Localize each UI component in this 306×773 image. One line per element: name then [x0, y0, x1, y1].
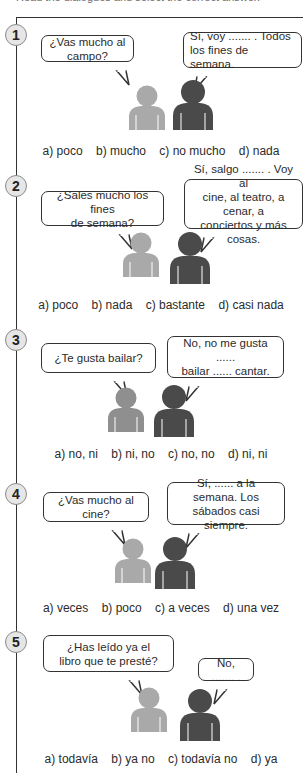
option-d[interactable]: d) ya	[251, 752, 278, 766]
option-d[interactable]: d) una vez	[223, 601, 279, 615]
exercise-number-badge: 3	[5, 329, 27, 351]
question-text: ¿Te gusta bailar?	[54, 351, 142, 365]
answer-bubble: No, no me gusta ...... bailar ...... can…	[167, 336, 284, 378]
option-c[interactable]: c) todavía no	[168, 752, 237, 766]
frame-left-line	[16, 17, 17, 773]
question-text: ¿Sales mucho los fines de semana?	[48, 188, 157, 230]
frame-top-line	[16, 17, 303, 18]
option-b[interactable]: b) ni, no	[111, 447, 154, 461]
answer-text: Sí, ...... a la semana. Los sábados casi…	[174, 476, 278, 532]
instruction-text: Read the dialogues and select the correc…	[16, 0, 306, 3]
answer-options: a) veces b) poco c) a veces d) una vez	[16, 601, 306, 615]
person-icon-light	[129, 85, 165, 130]
person-icon-dark	[180, 689, 220, 741]
person-icon-light	[123, 232, 159, 277]
answer-bubble: No, ....... .	[198, 658, 254, 681]
exercise-number-badge: 2	[5, 175, 27, 197]
person-icon-dark	[155, 537, 195, 589]
question-bubble: ¿Te gusta bailar?	[41, 343, 156, 373]
answer-options: a) poco b) mucho c) no mucho d) nada	[16, 144, 306, 158]
option-b[interactable]: b) ya no	[111, 752, 154, 766]
option-c[interactable]: c) bastante	[146, 298, 205, 312]
option-a[interactable]: a) no, ni	[55, 447, 98, 461]
question-bubble: ¿Has leído ya el libro que te presté?	[43, 635, 174, 672]
answer-bubble: Sí, ...... a la semana. Los sábados casi…	[167, 482, 285, 525]
option-d[interactable]: d) ni, ni	[228, 447, 267, 461]
option-c[interactable]: c) no, no	[168, 447, 215, 461]
exercise-number-badge: 1	[5, 24, 27, 46]
answer-options: a) poco b) nada c) bastante d) casi nada	[16, 298, 306, 312]
person-icon-dark	[154, 385, 194, 437]
question-text: ¿Vas mucho al cine?	[50, 493, 142, 521]
question-text: ¿Vas mucho al campo?	[48, 35, 127, 63]
person-icon-light	[108, 387, 144, 432]
option-b[interactable]: b) nada	[92, 298, 133, 312]
question-bubble: ¿Vas mucho al campo?	[41, 35, 134, 62]
option-c[interactable]: c) no mucho	[159, 144, 225, 158]
answer-bubble: Sí, salgo ....... . Voy al cine, al teat…	[184, 179, 303, 229]
answer-bubble: Sí, voy ....... . Todos los fines de sem…	[183, 32, 302, 68]
option-b[interactable]: b) poco	[102, 601, 142, 615]
option-a[interactable]: a) veces	[43, 601, 88, 615]
question-bubble: ¿Sales mucho los fines de semana?	[41, 191, 164, 226]
question-bubble: ¿Vas mucho al cine?	[43, 492, 149, 522]
option-d[interactable]: d) casi nada	[218, 298, 283, 312]
answer-text: No, ....... .	[205, 656, 247, 684]
answer-options: a) no, ni b) ni, no c) no, no d) ni, ni	[16, 447, 306, 461]
person-icon-light	[131, 687, 167, 732]
answer-text: Sí, voy ....... . Todos los fines de sem…	[190, 29, 295, 71]
option-d[interactable]: d) nada	[239, 144, 280, 158]
person-icon-dark	[173, 80, 213, 130]
option-b[interactable]: b) mucho	[96, 144, 146, 158]
question-text: ¿Has leído ya el libro que te presté?	[59, 640, 157, 668]
answer-text: No, no me gusta ...... bailar ...... can…	[174, 336, 277, 378]
option-a[interactable]: a) todavía	[45, 752, 98, 766]
option-c[interactable]: c) a veces	[155, 601, 210, 615]
option-a[interactable]: a) poco	[38, 298, 78, 312]
exercise-number-badge: 5	[5, 631, 27, 653]
option-a[interactable]: a) poco	[43, 144, 83, 158]
answer-options: a) todavía b) ya no c) todavía no d) ya	[16, 752, 306, 766]
person-icon-light	[115, 538, 151, 583]
exercise-number-badge: 4	[5, 483, 27, 505]
person-icon-dark	[170, 232, 210, 284]
